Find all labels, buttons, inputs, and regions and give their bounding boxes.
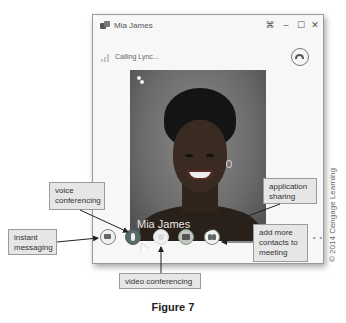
figure-caption: Figure 7 — [0, 301, 346, 313]
video-icon — [158, 234, 164, 240]
instant-message-icon — [104, 234, 111, 239]
signal-strength-icon — [101, 54, 111, 62]
lync-app-icon — [100, 21, 110, 30]
participant-name: Mia James — [137, 218, 190, 230]
phone-icon — [131, 233, 135, 241]
compact-view-icon[interactable]: ⌘ — [265, 20, 275, 30]
close-icon[interactable]: ✕ — [310, 20, 320, 30]
more-options-button[interactable]: • • — [313, 234, 323, 241]
call-status-text: Calling Lync... — [115, 53, 159, 60]
title-bar: Mia James ⌘ – ☐ ✕ — [93, 15, 323, 37]
people-icon — [208, 234, 215, 239]
instant-message-button[interactable] — [100, 229, 116, 245]
add-people-button[interactable] — [204, 229, 220, 245]
callout-voice-conferencing: voice conferencing — [49, 182, 105, 210]
callout-video-conferencing: video conferencing — [119, 273, 201, 289]
share-button[interactable] — [178, 229, 194, 245]
minimize-icon[interactable]: – — [281, 20, 291, 30]
mute-icon — [137, 76, 145, 85]
window-title: Mia James — [114, 21, 153, 30]
participant-face — [173, 120, 227, 192]
hang-up-button[interactable] — [291, 48, 309, 66]
callout-instant-messaging: instant messaging — [8, 229, 57, 255]
callout-application-sharing: application sharing — [263, 178, 317, 204]
copyright-notice: © 2014 Cengage Learning — [328, 168, 337, 262]
maximize-icon[interactable]: ☐ — [296, 20, 306, 30]
voice-button[interactable] — [125, 229, 141, 245]
video-button[interactable] — [153, 229, 169, 245]
screen-share-icon — [182, 234, 190, 240]
callout-add-contacts: add more contacts to meeting — [253, 224, 308, 262]
video-feed: Mia James — [130, 70, 266, 241]
